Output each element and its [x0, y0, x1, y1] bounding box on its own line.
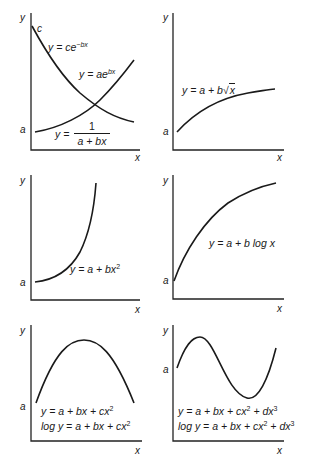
- y-axis-label: y: [163, 176, 168, 186]
- log-curve: [174, 183, 276, 281]
- y-axis-label: y: [20, 13, 25, 23]
- y-axis-label: y: [20, 326, 25, 336]
- sqrt-equation: y = a + b√x: [182, 85, 235, 96]
- x-axis-label: x: [277, 446, 282, 456]
- reciprocal-fraction: 1 a + bx: [74, 121, 110, 146]
- parabola-log-equation: log y = a + bx + cx2: [41, 420, 130, 432]
- intercept-a-label: a: [20, 278, 26, 288]
- x-axis-label: x: [135, 153, 140, 163]
- parabola-curve: [36, 340, 134, 403]
- panel-sqrt: [173, 13, 284, 150]
- intercept-c-label: c: [37, 24, 42, 34]
- cubic-equation: y = a + bx + cx2 + dx3: [178, 405, 277, 417]
- panel-quadratic: [31, 175, 140, 300]
- intercept-a-label: a: [20, 402, 26, 412]
- intercept-a-label: a: [163, 127, 169, 137]
- y-axis-label: y: [163, 326, 168, 336]
- parabola-equation: y = a + bx + cx2: [41, 405, 113, 417]
- intercept-a-label: a: [163, 365, 169, 375]
- intercept-a-label: a: [20, 125, 26, 135]
- reciprocal-lhs: y =: [55, 129, 69, 140]
- cubic-log-equation: log y = a + bx + cx2 + dx3: [178, 420, 294, 432]
- intercept-a-label: a: [163, 276, 169, 286]
- quadratic-equation: y = a + bx2: [70, 263, 120, 275]
- curves-figure: [0, 0, 310, 468]
- log-equation: y = a + b log x: [209, 238, 275, 249]
- x-axis-label: x: [277, 153, 282, 163]
- y-axis-label: y: [20, 176, 25, 186]
- x-axis-label: x: [135, 446, 140, 456]
- x-axis-label: x: [277, 304, 282, 314]
- decay-equation: y = ce−bx: [48, 41, 88, 53]
- growth-equation: y = aebx: [79, 68, 115, 80]
- y-axis-label: y: [163, 13, 168, 23]
- axes: [173, 13, 284, 150]
- x-axis-label: x: [135, 305, 140, 315]
- cubic-curve: [177, 337, 276, 398]
